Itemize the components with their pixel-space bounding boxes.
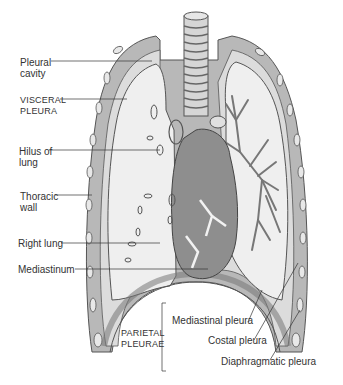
label-parietal-pleurae: PARIETAL PLEURAE (121, 328, 165, 350)
label-mediastinal-pleura: Mediastinal pleura (172, 315, 253, 326)
label-mediastinum: Mediastinum (18, 264, 75, 275)
label-visceral-pleura: VISCERAL PLEURA (20, 95, 66, 117)
label-right-lung: Right lung (18, 238, 63, 249)
label-diaphragmatic-pleura: Diaphragmatic pleura (221, 356, 316, 367)
label-pleural-cavity: Pleural cavity (20, 57, 51, 79)
heart (172, 129, 238, 279)
label-costal-pleura: Costal pleura (208, 335, 267, 346)
label-hilus-of-lung: Hilus of lung (19, 146, 52, 168)
trachea-icon (184, 12, 208, 116)
label-thoracic-wall: Thoracic wall (20, 191, 58, 213)
